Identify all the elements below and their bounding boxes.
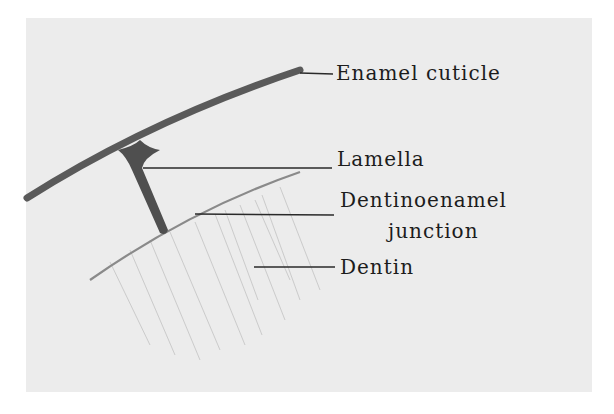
dental-histology-figure: Enamel cuticle Lamella Dentinoenamel jun… <box>0 0 614 414</box>
label-dentinoenamel: Dentinoenamel <box>340 190 507 210</box>
diagram-drawing <box>0 0 614 414</box>
dentinoenamel-junction-curve <box>90 172 300 280</box>
label-junction: junction <box>388 221 479 241</box>
leader-lines <box>143 73 335 267</box>
leader-dej <box>195 214 334 215</box>
label-dentin: Dentin <box>340 257 414 277</box>
label-enamel-cuticle: Enamel cuticle <box>336 63 501 83</box>
leader-enamel-cuticle <box>300 73 333 74</box>
lamella-structure <box>118 140 168 234</box>
enamel-cuticle-band <box>27 70 300 198</box>
dentin-striations <box>110 187 320 360</box>
label-lamella: Lamella <box>337 149 425 169</box>
